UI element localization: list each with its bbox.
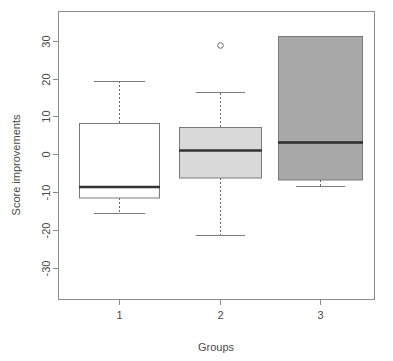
x-label-2: 2 <box>217 309 223 321</box>
box3-rect <box>279 37 363 181</box>
y-axis-ticks <box>53 42 58 269</box>
y-label-neg30: -30 <box>40 261 52 277</box>
chart-canvas: 30 20 10 0 -10 -20 -30 Score improvement… <box>0 0 393 361</box>
boxplot-group-2 <box>179 43 262 236</box>
y-axis-tick-labels: 30 20 10 0 -10 -20 -30 <box>40 35 52 276</box>
y-label-neg10: -10 <box>40 185 52 201</box>
y-label-30: 30 <box>40 35 52 47</box>
x-label-3: 3 <box>317 309 323 321</box>
x-axis-ticks <box>120 300 321 306</box>
x-axis-title: Groups <box>198 341 235 353</box>
x-axis-tick-labels: 1 2 3 <box>116 309 323 321</box>
box2-outlier-point <box>218 43 224 49</box>
y-label-0: 0 <box>40 151 52 157</box>
y-label-10: 10 <box>40 110 52 122</box>
y-label-20: 20 <box>40 73 52 85</box>
box2-rect <box>180 128 262 179</box>
y-axis-title: Score improvements <box>10 114 22 215</box>
boxplot-group-1 <box>79 81 160 214</box>
y-label-neg20: -20 <box>40 223 52 239</box>
x-label-1: 1 <box>116 309 122 321</box>
boxplot-figure: 30 20 10 0 -10 -20 -30 Score improvement… <box>0 0 393 361</box>
boxplot-group-3 <box>278 37 363 187</box>
